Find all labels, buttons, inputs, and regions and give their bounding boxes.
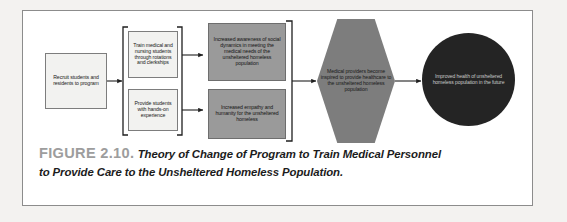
node-recruit-students[interactable]: Recruit students and residents to progra… <box>45 53 107 109</box>
node-improved-health-goal[interactable]: Improved health of unsheltered homeless … <box>422 33 515 126</box>
node-train-students-label: Train medical and nursing students throu… <box>129 43 177 66</box>
node-medical-providers-inspired-label: Medical providers become inspired to pro… <box>317 69 395 92</box>
figure-caption-text-1: Theory of Change of Program to Train Med… <box>138 148 441 160</box>
node-hands-on-experience[interactable]: Provide students with hands-on experienc… <box>128 89 178 131</box>
node-train-students[interactable]: Train medical and nursing students throu… <box>128 31 178 78</box>
node-increased-empathy[interactable]: Increased empathy and humanity for the u… <box>208 89 286 139</box>
node-recruit-students-label: Recruit students and residents to progra… <box>46 75 106 87</box>
figure-caption: FIGURE 2.10. Theory of Change of Program… <box>39 143 523 182</box>
figure-number-label: FIGURE 2.10. <box>39 145 134 161</box>
node-improved-health-goal-label: Improved health of unsheltered homeless … <box>422 74 515 85</box>
figure-caption-text-2: to Provide Care to the Unsheltered Homel… <box>39 166 343 178</box>
figure-caption-line-1: FIGURE 2.10. Theory of Change of Program… <box>39 143 523 164</box>
node-medical-providers-inspired[interactable]: Medical providers become inspired to pro… <box>317 19 395 143</box>
bracket-outcomes-right <box>286 21 292 141</box>
theory-of-change-diagram: Recruit students and residents to progra… <box>23 11 534 151</box>
node-increased-awareness[interactable]: Increased awareness of social dynamics i… <box>208 23 286 81</box>
figure-card: Recruit students and residents to progra… <box>22 10 533 206</box>
node-increased-awareness-label: Increased awareness of social dynamics i… <box>209 37 285 66</box>
node-increased-empathy-label: Increased empathy and humanity for the u… <box>209 105 285 122</box>
figure-caption-line-2: to Provide Care to the Unsheltered Homel… <box>39 164 523 182</box>
node-hands-on-experience-label: Provide students with hands-on experienc… <box>129 101 177 118</box>
